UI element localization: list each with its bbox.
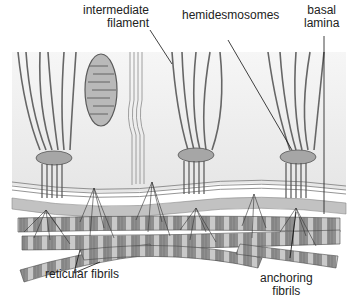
label-line: lamina <box>304 17 339 30</box>
label-basal-lamina: basal lamina <box>304 4 339 30</box>
label-intermediate-filament: intermediate filament <box>83 4 149 30</box>
label-reticular-fibrils: reticular fibrils <box>45 268 119 281</box>
diagram-illustration <box>0 0 358 307</box>
label-line: fibrils <box>260 285 313 298</box>
mitochondrion <box>85 54 117 126</box>
label-line: filament <box>83 17 149 30</box>
label-hemidesmosomes: hemidesmosomes <box>182 9 279 22</box>
hemidesmosome-diagram: intermediate filament hemidesmosomes bas… <box>0 0 358 307</box>
label-anchoring-fibrils: anchoring fibrils <box>260 272 313 298</box>
